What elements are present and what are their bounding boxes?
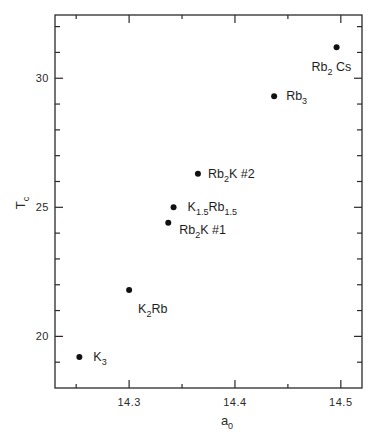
y-tick-label: 20	[36, 330, 49, 342]
data-point-label: Rb2K #2	[208, 167, 255, 184]
data-point-label: Rb2 Cs	[312, 60, 352, 77]
chart-canvas: 14.314.414.5 202530 a0 Tc K3K2RbRb2K #1K…	[0, 0, 375, 436]
x-tick-label: 14.5	[329, 396, 352, 408]
data-point-label: Rb3	[286, 89, 307, 106]
data-point	[165, 220, 171, 226]
x-tick-label: 14.4	[223, 396, 246, 408]
x-tick-label: 14.3	[117, 396, 140, 408]
data-point-label: Rb2K #1	[179, 223, 226, 240]
data-point	[76, 354, 82, 360]
x-axis-tick-labels: 14.314.414.5	[117, 396, 352, 408]
data-point	[334, 44, 340, 50]
data-point	[126, 287, 132, 293]
data-point-label: K1.5Rb1.5	[188, 200, 237, 217]
data-point-labels: K3K2RbRb2K #1K1.5Rb1.5Rb2K #2Rb3Rb2 Cs	[93, 60, 351, 367]
y-tick-label: 25	[36, 201, 49, 213]
data-point	[271, 93, 277, 99]
scatter-chart: 14.314.414.5 202530 a0 Tc K3K2RbRb2K #1K…	[0, 0, 375, 436]
y-axis-label-subscript: c	[21, 196, 31, 201]
y-tick-label: 30	[36, 72, 49, 84]
x-axis-label-subscript: 0	[228, 421, 233, 431]
y-axis-label: Tc	[13, 196, 31, 209]
y-axis-ticks	[55, 27, 362, 363]
data-point	[195, 171, 201, 177]
data-point-label: K3	[93, 350, 106, 367]
y-axis-tick-labels: 202530	[36, 72, 49, 342]
y-axis-label-main: T	[13, 201, 28, 209]
data-point	[171, 204, 177, 210]
data-point-label: K2Rb	[138, 302, 167, 319]
x-axis-label: a0	[221, 413, 233, 431]
